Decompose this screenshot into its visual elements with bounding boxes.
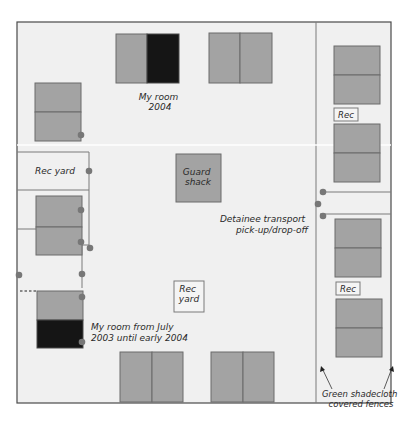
room (240, 33, 272, 83)
door-marker (79, 339, 86, 346)
top-left-building (116, 34, 179, 83)
bottom-left-building (120, 352, 183, 402)
label-rec-yard-center: Rec yard (178, 284, 200, 304)
label-my-room-2003: My room from July 2003 until early 2004 (91, 322, 188, 343)
door-marker (315, 201, 322, 208)
right-building-3 (335, 219, 381, 277)
bottom-right-building (211, 352, 274, 402)
compound-floor-plan: My room 2004 Rec yard My room from July … (0, 0, 419, 437)
left-middle-building (36, 196, 82, 255)
room (120, 352, 152, 402)
top-right-building (209, 33, 272, 83)
room (36, 196, 82, 227)
label-rec-yard-left: Rec yard (35, 166, 75, 176)
label-guard-shack: Guard shack (183, 167, 213, 187)
room (334, 46, 380, 75)
room (335, 219, 381, 248)
room (211, 352, 243, 402)
right-building-2 (334, 124, 380, 182)
room (334, 124, 380, 153)
room (116, 34, 147, 83)
left-bottom-building (37, 291, 83, 348)
label-rec-top: Rec (338, 110, 354, 120)
door-marker (78, 132, 85, 139)
room (35, 112, 81, 141)
door-marker (79, 294, 86, 301)
door-marker (16, 272, 23, 279)
room (334, 153, 380, 182)
label-rec-bottom: Rec (340, 284, 356, 294)
room (152, 352, 183, 402)
right-building-1 (334, 46, 380, 104)
room (334, 75, 380, 104)
my-room-2004 (147, 34, 179, 83)
door-marker (86, 168, 93, 175)
door-marker (320, 189, 327, 196)
door-marker (87, 245, 94, 252)
door-marker (320, 213, 327, 220)
door-marker (78, 239, 85, 246)
room (243, 352, 274, 402)
room (335, 248, 381, 277)
room (36, 227, 82, 255)
door-marker (79, 271, 86, 278)
door-marker (78, 207, 85, 214)
room (35, 83, 81, 112)
room (336, 299, 382, 328)
room (209, 33, 240, 83)
right-building-4 (336, 299, 382, 357)
left-top-building (35, 83, 81, 141)
my-room-2003 (37, 320, 83, 348)
room (37, 291, 83, 320)
label-fences: Green shadecloth covered fences (322, 389, 400, 409)
room (336, 328, 382, 357)
